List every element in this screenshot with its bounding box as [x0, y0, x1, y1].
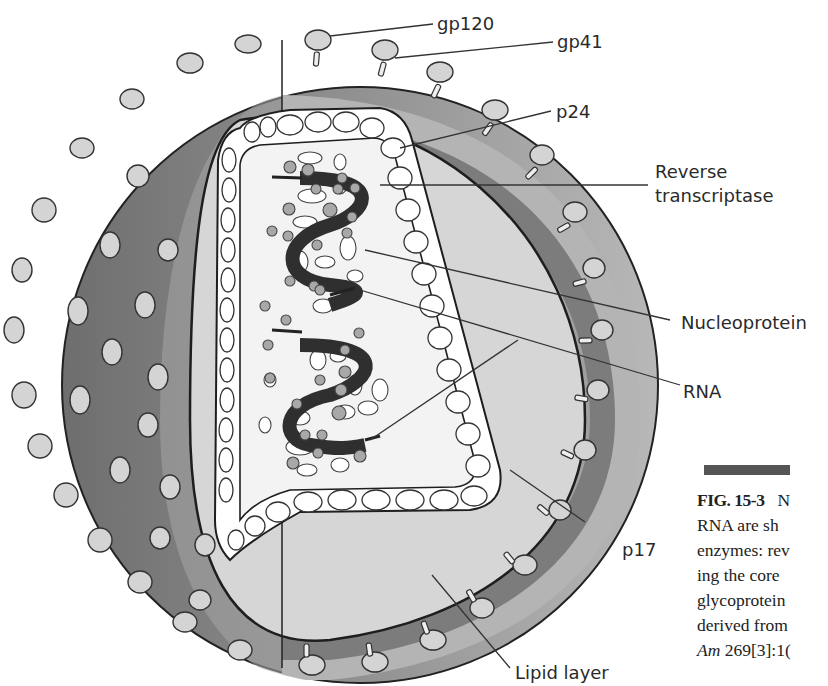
caption-rule	[704, 465, 790, 475]
caption-figure-number: FIG. 15-3	[697, 490, 764, 510]
caption-line-6: Am 269[3]:1(	[697, 638, 828, 663]
label-gp120: gp120	[437, 13, 494, 34]
label-gp41: gp41	[557, 31, 603, 52]
caption-line-1: RNA are sh	[697, 513, 828, 538]
caption-line-2: enzymes: rev	[697, 538, 828, 563]
label-p17: p17	[622, 539, 656, 560]
label-reverse-transcriptase-line1: Reverse	[655, 161, 727, 182]
caption-line-6-text: 269[3]:1(	[725, 640, 791, 660]
label-rna: RNA	[683, 381, 722, 402]
caption-line-0-text: N	[778, 490, 791, 510]
figure-caption: FIG. 15-3 N RNA are sh enzymes: rev ing …	[697, 488, 828, 663]
caption-line-5: derived from	[697, 613, 828, 638]
caption-line-4: glycoprotein	[697, 588, 828, 613]
caption-line-0: FIG. 15-3 N	[697, 488, 828, 513]
label-nucleoprotein: Nucleoprotein	[681, 312, 807, 333]
caption-line-3: ing the core	[697, 563, 828, 588]
label-lipid-layer: Lipid layer	[515, 662, 609, 683]
label-p24: p24	[556, 101, 590, 122]
label-reverse-transcriptase-line2: transcriptase	[655, 185, 774, 206]
caption-journal: Am	[697, 640, 720, 660]
